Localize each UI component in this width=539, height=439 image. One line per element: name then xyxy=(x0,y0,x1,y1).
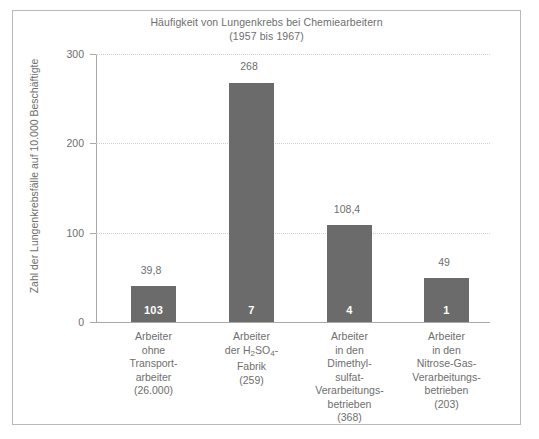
x-category-label-3: Arbeiter in den Dimethyl- sulfat- Verarb… xyxy=(294,330,405,425)
bar-2[interactable]: 7 xyxy=(229,83,274,323)
bar-value-label-4: 49 xyxy=(404,256,484,268)
cat3-line4: sulfat- xyxy=(294,371,405,385)
cat4-line5: betrieben xyxy=(391,384,502,398)
cat1-line5: (26.000) xyxy=(98,384,209,398)
y-tick-label-300: 300 xyxy=(24,49,84,60)
y-tick-label-0: 0 xyxy=(24,317,84,328)
chart-subtitle: (1957 bis 1967) xyxy=(12,29,521,43)
cat4-line2: in den xyxy=(391,344,502,358)
cat3-line1: Arbeiter xyxy=(294,330,405,344)
bar-4[interactable]: 1 xyxy=(424,278,469,322)
y-tick-label-100: 100 xyxy=(24,228,84,239)
bar-3[interactable]: 4 xyxy=(327,225,372,322)
cat2-line3: Fabrik xyxy=(196,360,307,374)
gridline-300 xyxy=(96,54,490,55)
cat3-line6: betrieben xyxy=(294,398,405,412)
cat3-line2: in den xyxy=(294,344,405,358)
chart-figure: Häufigkeit von Lungenkrebs bei Chemiearb… xyxy=(0,0,539,439)
gridline-200 xyxy=(96,143,490,144)
bar-1[interactable]: 103 xyxy=(131,286,176,322)
bar-inside-label-2: 7 xyxy=(229,304,274,316)
cat4-line4: Verarbeitungs- xyxy=(391,371,502,385)
y-tick-mark-0 xyxy=(90,322,96,323)
chart-title: Häufigkeit von Lungenkrebs bei Chemiearb… xyxy=(12,15,521,29)
cat4-line1: Arbeiter xyxy=(391,330,502,344)
y-tick-label-200: 200 xyxy=(24,138,84,149)
bar-value-label-3: 108,4 xyxy=(307,203,387,215)
cat4-line3: Nitrose-Gas- xyxy=(391,357,502,371)
bar-value-label-2: 268 xyxy=(209,60,289,72)
x-category-label-1: Arbeiter ohne Transport- arbeiter (26.00… xyxy=(98,330,209,398)
x-category-label-2: Arbeiter der H2SO4- Fabrik (259) xyxy=(196,330,307,387)
gridline-100 xyxy=(96,233,490,234)
cat3-line5: Verarbeitungs- xyxy=(294,384,405,398)
y-tick-mark-300 xyxy=(90,54,96,55)
y-tick-mark-100 xyxy=(90,233,96,234)
chart-title-block: Häufigkeit von Lungenkrebs bei Chemiearb… xyxy=(12,15,521,43)
cat2-line1: Arbeiter xyxy=(196,330,307,344)
bar-inside-label-4: 1 xyxy=(424,304,469,316)
bar-inside-label-1: 103 xyxy=(131,304,176,316)
cat2-line4: (259) xyxy=(196,374,307,388)
cat1-line2: ohne xyxy=(98,344,209,358)
y-axis-line xyxy=(96,54,97,322)
y-tick-mark-200 xyxy=(90,143,96,144)
cat3-line3: Dimethyl- xyxy=(294,357,405,371)
cat4-line6: (203) xyxy=(391,398,502,412)
cat1-line1: Arbeiter xyxy=(98,330,209,344)
cat3-line7: (368) xyxy=(294,411,405,425)
bar-inside-label-3: 4 xyxy=(327,304,372,316)
y-axis-label: Zahl der Lungenkrebsfälle auf 10.000 Bes… xyxy=(28,56,40,296)
cat1-line3: Transport- xyxy=(98,357,209,371)
x-category-label-4: Arbeiter in den Nitrose-Gas- Verarbeitun… xyxy=(391,330,502,411)
x-axis-line xyxy=(96,322,490,323)
bar-value-label-1: 39,8 xyxy=(111,264,191,276)
cat2-line2-formula: der H2SO4- xyxy=(196,344,307,361)
cat1-line4: arbeiter xyxy=(98,371,209,385)
